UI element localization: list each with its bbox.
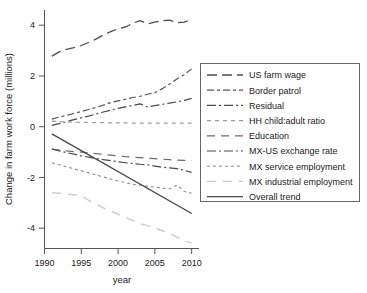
y-tick-label: 0: [30, 122, 35, 132]
chart-legend: US farm wageBorder patrolResidualHH chil…: [201, 64, 360, 203]
x-tick-label: 2010: [182, 258, 202, 268]
x-tick-label: 2005: [145, 258, 165, 268]
line-chart: 420-2-4 19901995200020052010 Change in f…: [0, 0, 367, 293]
x-tick-label: 1990: [34, 258, 54, 268]
legend-item-label: MX-US exchange rate: [249, 146, 338, 156]
y-tick-label: 4: [30, 20, 35, 30]
x-tick-label: 2000: [108, 258, 128, 268]
y-tick-label: 2: [30, 71, 35, 81]
y-tick-label: -2: [27, 173, 35, 183]
x-tick-label: 1995: [71, 258, 91, 268]
legend-item-label: Border patrol: [249, 86, 301, 96]
legend-item-label: Overall trend: [249, 192, 301, 202]
x-axis-title: year: [113, 274, 131, 285]
legend-item-label: US farm wage: [249, 70, 306, 80]
y-tick-label: -4: [27, 223, 35, 233]
legend-item-label: HH child:adult ratio: [249, 116, 325, 126]
y-axis-title: Change in farm work force (millions): [3, 53, 14, 205]
chart-figure: 420-2-4 19901995200020052010 Change in f…: [0, 0, 367, 293]
legend-item-label: MX industrial employment: [249, 177, 353, 187]
legend-item-label: MX service employment: [249, 162, 346, 172]
legend-item-label: Residual: [249, 101, 284, 111]
legend-item-label: Education: [249, 131, 289, 141]
